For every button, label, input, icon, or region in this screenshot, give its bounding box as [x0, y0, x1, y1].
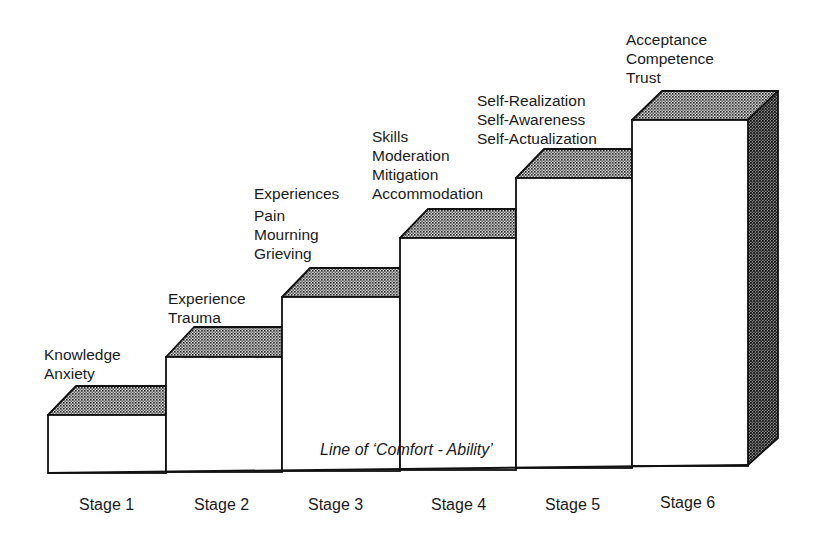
descriptor: Competence: [626, 49, 714, 68]
descriptor: Experiences: [254, 184, 339, 203]
step-5-top: [516, 149, 632, 178]
descriptor: Self-Actualization: [477, 129, 597, 148]
step-4-top: [400, 209, 516, 238]
stage-6-label: Stage 6: [660, 494, 715, 512]
descriptor: Moderation: [372, 146, 483, 165]
step-4-front: [400, 238, 516, 470]
descriptor: Knowledge: [44, 345, 121, 364]
stage-1-descriptors: Knowledge Anxiety: [44, 345, 121, 383]
descriptor: Acceptance: [626, 30, 714, 49]
descriptor: Trauma: [168, 308, 246, 327]
stage-2-label: Stage 2: [194, 496, 249, 514]
stage-2-descriptors: Experience Trauma: [168, 289, 246, 327]
stage-4-descriptors: Skills Moderation Mitigation Accommodati…: [372, 127, 483, 203]
stage-3-descriptors: Experiences Pain Mourning Grieving: [254, 184, 339, 263]
stage-5-descriptors: Self-Realization Self-Awareness Self-Act…: [477, 91, 597, 148]
step-2-top: [166, 327, 282, 357]
descriptor: Mitigation: [372, 165, 483, 184]
descriptor: Self-Awareness: [477, 110, 597, 129]
descriptor: Anxiety: [44, 364, 121, 383]
descriptor: Grieving: [254, 244, 339, 263]
step-1-top: [48, 386, 166, 415]
stage-5-label: Stage 5: [545, 496, 600, 514]
stage-6-descriptors: Acceptance Competence Trust: [626, 30, 714, 87]
descriptor: Experience: [168, 289, 246, 308]
descriptor: Pain: [254, 206, 339, 225]
step-3-top: [282, 268, 400, 297]
stage-4-label: Stage 4: [431, 496, 486, 514]
step-6-side: [748, 91, 778, 465]
descriptor: Accommodation: [372, 184, 483, 203]
comfort-ability-line-label: Line of ‘Comfort - Ability’: [320, 441, 493, 459]
descriptor: Trust: [626, 68, 714, 87]
descriptor: Mourning: [254, 225, 339, 244]
descriptor: Self-Realization: [477, 91, 597, 110]
step-1-front: [48, 415, 166, 473]
step-6-front: [632, 120, 748, 466]
stage-1-label: Stage 1: [79, 496, 134, 514]
stage-3-label: Stage 3: [308, 496, 363, 514]
descriptor: Skills: [372, 127, 483, 146]
step-2-front: [166, 357, 282, 472]
step-5-front: [516, 178, 632, 468]
